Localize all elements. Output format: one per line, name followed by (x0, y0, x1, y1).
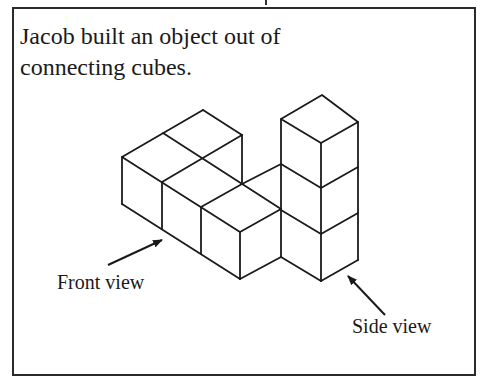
cube-edges (122, 95, 358, 281)
side-view-arrow-icon (348, 276, 385, 315)
side-view-label: Side view (352, 316, 431, 336)
front-view-arrow-icon (108, 240, 162, 265)
front-view-label: Front view (57, 272, 144, 292)
